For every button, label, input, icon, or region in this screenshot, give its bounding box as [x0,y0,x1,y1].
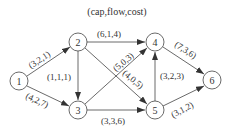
edge-label-2-4: (6,1,4) [97,29,121,39]
graph-canvas: (3,2,1) (4,2,7) (1,1,1) (6,1,4) (4,0,5) … [0,0,234,133]
edge-label-3-5: (3,3,6) [101,116,125,126]
edge-labels: (3,2,1) (4,2,7) (1,1,1) (6,1,4) (4,0,5) … [24,29,198,126]
node-5: 5 [146,101,164,119]
edge-label-4-6: (7,3,6) [173,39,199,60]
svg-text:5: 5 [153,105,158,116]
edge-label-5-6: (3,1,2) [169,100,195,120]
edge-label-2-5: (4,0,5) [121,68,146,91]
svg-text:4: 4 [153,37,158,48]
node-6: 6 [203,71,221,89]
edge-label-5-4: (3,2,3) [160,71,184,81]
node-2: 2 [69,33,87,51]
flow-network-diagram: (cap,flow,cost) (3,2,1) (4,2,7) (1,1,1) … [0,0,234,133]
node-4: 4 [146,33,164,51]
node-1: 1 [10,72,28,90]
node-3: 3 [69,101,87,119]
svg-text:6: 6 [210,75,215,86]
svg-text:1: 1 [17,76,22,87]
svg-text:2: 2 [76,37,81,48]
edge-label-1-3: (4,2,7) [24,91,50,110]
edge-label-2-3: (1,1,1) [47,72,71,82]
svg-text:3: 3 [76,105,81,116]
